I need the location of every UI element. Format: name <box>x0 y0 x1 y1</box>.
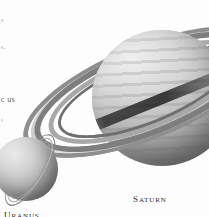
uranus-label-rest: RANUS <box>11 212 39 217</box>
saturn-label: SATURN <box>133 188 167 206</box>
uranus-label: URANUS <box>4 204 40 217</box>
illustration-canvas: e s, c us s <box>0 0 209 217</box>
margin-text-fragment-1: e <box>1 17 4 23</box>
margin-text-fragment-4: s <box>1 117 4 123</box>
saturn-label-rest: ATURN <box>139 196 167 204</box>
